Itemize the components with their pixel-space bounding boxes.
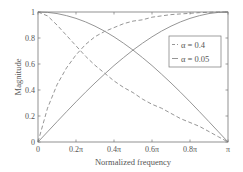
- x-tick-label: π: [226, 145, 230, 154]
- series-line-0: [38, 12, 228, 142]
- y-tick-label: 1: [31, 8, 35, 17]
- x-tick-label: 0.6π: [145, 145, 159, 154]
- axes: 00.2π0.4π0.6π0.8ππ00.20.40.60.81: [25, 8, 230, 154]
- series-line-3: [38, 12, 228, 142]
- legend-label-alpha-0-4: α = 0.4: [181, 40, 206, 50]
- x-tick-label: 0.4π: [107, 145, 121, 154]
- y-axis-label: Magnitude: [13, 58, 23, 95]
- x-axis-label: Normalized frequency: [95, 157, 172, 167]
- plot-area: [38, 12, 228, 142]
- x-tick-label: 0: [36, 145, 40, 154]
- legend-label-alpha-0-05: α = 0.05: [181, 54, 209, 64]
- series-line-1: [38, 12, 228, 142]
- y-tick-label: 0: [31, 138, 35, 147]
- y-tick-label: 0.8: [25, 34, 35, 43]
- axes-frame: [38, 12, 228, 142]
- series-line-2: [38, 12, 228, 142]
- y-tick-label: 0.6: [25, 60, 35, 69]
- magnitude-chart: 00.2π0.4π0.6π0.8ππ00.20.40.60.81 Normali…: [0, 0, 243, 172]
- y-tick-label: 0.2: [25, 112, 35, 121]
- x-tick-label: 0.2π: [69, 145, 83, 154]
- x-tick-label: 0.8π: [183, 145, 197, 154]
- legend: α = 0.4 α = 0.05: [169, 36, 221, 67]
- y-tick-label: 0.4: [25, 86, 35, 95]
